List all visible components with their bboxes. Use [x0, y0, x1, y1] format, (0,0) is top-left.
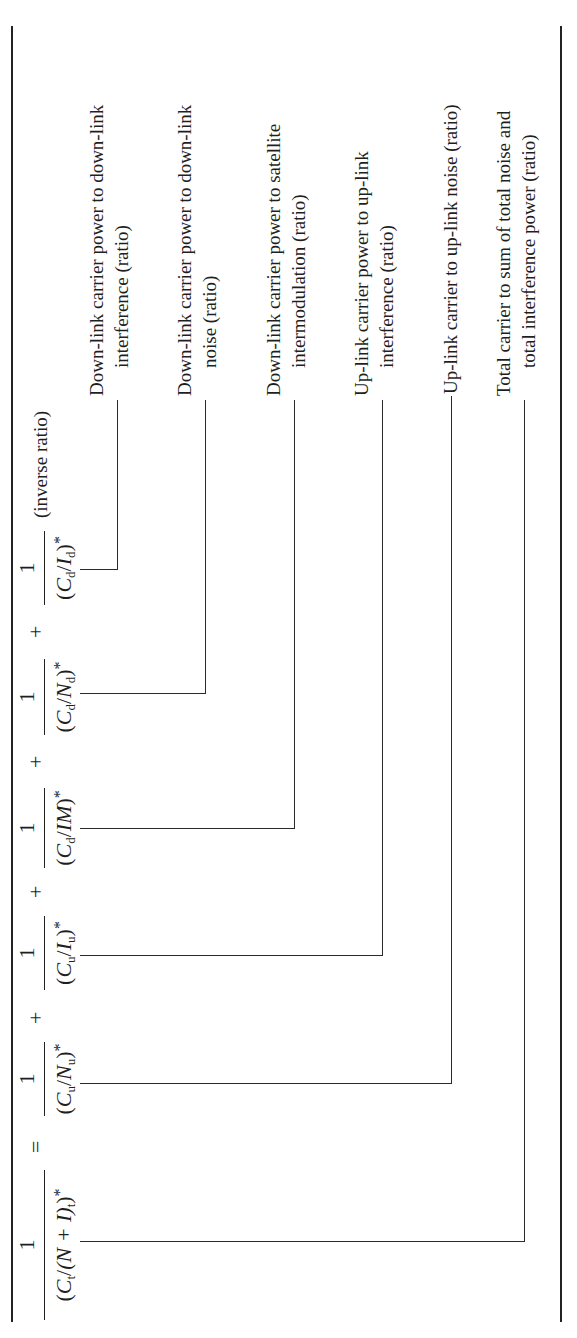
leader-line-downlink-intermodulation — [294, 400, 295, 829]
label-total-carrier-to-noise-interference: Total carrier to sum of total noise and … — [491, 111, 541, 396]
label-downlink-noise: Down-link carrier power to down-link noi… — [172, 105, 222, 396]
label-downlink-interference: Down-link carrier power to down-link int… — [84, 105, 134, 396]
plus-sign: + — [25, 756, 47, 768]
numerator: 1 — [14, 1240, 44, 1251]
bottom-rule — [560, 26, 562, 1322]
leader-line-downlink-interference — [117, 400, 118, 570]
fraction-uplink-noise: 1 (Cu/Nu)* — [14, 1042, 86, 1116]
leader-line-uplink-noise — [80, 1083, 451, 1084]
inverse-ratio-note: (inverse ratio) — [30, 411, 52, 518]
fraction-total: 1 (Ct/(N + I)t)* — [14, 1170, 86, 1320]
leader-line-total — [524, 400, 525, 1242]
top-rule — [11, 26, 13, 1322]
link-budget-diagram: 1 (Ct/(N + I)t)* = 1 (Cu/Nu)* + 1 (Cu/Iu… — [0, 0, 577, 1338]
plus-sign: + — [25, 626, 47, 638]
leader-line-uplink-interference — [382, 400, 383, 956]
plus-sign: + — [25, 1012, 47, 1024]
denominator: (Ct/(N + I)t)* — [45, 1188, 86, 1301]
leader-line-uplink-interference — [80, 955, 382, 956]
label-uplink-interference: Up-link carrier power to up-link interfe… — [349, 151, 399, 396]
fraction-uplink-interference: 1 (Cu/Iu)* — [14, 916, 86, 990]
leader-line-total — [80, 1241, 524, 1242]
leader-line-downlink-intermodulation — [80, 828, 294, 829]
plus-sign: + — [25, 886, 47, 898]
leader-line-downlink-interference — [80, 569, 117, 570]
leader-line-downlink-noise — [80, 693, 205, 694]
label-uplink-noise: Up-link carrier to up-link noise (ratio) — [438, 104, 463, 394]
leader-line-downlink-noise — [205, 400, 206, 694]
label-downlink-intermodulation: Down-link carrier power to satellite int… — [261, 124, 311, 396]
fraction-downlink-noise: 1 (Cd/Nd)* — [14, 659, 86, 735]
fraction-downlink-intermodulation: 1 (Cd/IM)* — [14, 788, 86, 868]
equals-sign: = — [25, 1141, 47, 1153]
leader-line-uplink-noise — [451, 396, 452, 1084]
fraction-downlink-interference: 1 (Cd/Id)* — [14, 531, 86, 605]
